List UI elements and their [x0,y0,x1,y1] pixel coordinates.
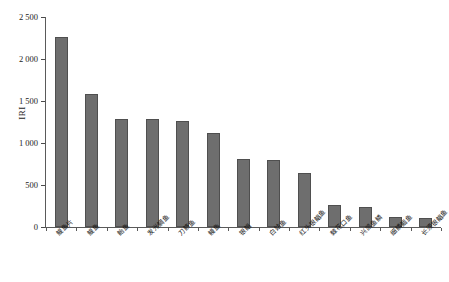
x-axis-tick-mark [46,228,47,231]
bar [55,37,68,227]
x-axis-tick-mark [137,228,138,231]
bar [146,119,159,227]
y-axis-tick-label: 1 000 [2,139,38,148]
bar [207,133,220,228]
bar [176,121,189,227]
bar [115,119,128,227]
x-axis-tick-mark [411,228,412,231]
x-axis-tick-mark [380,228,381,231]
bar [267,160,280,227]
bar-chart: IRI 05001 0001 5002 0002 500 鳀鱼片鳀鱼鲐鱼发光鲷鱼… [0,0,449,282]
y-axis-tick-mark [41,101,45,102]
bar [85,94,98,227]
y-axis-tick-mark [41,17,45,18]
x-axis-tick-mark [350,228,351,231]
y-axis-tick-label: 500 [2,181,38,190]
x-axis-tick-mark [168,228,169,231]
x-axis-tick-mark [228,228,229,231]
y-axis-tick-mark [41,185,45,186]
y-axis-tick-label: 1 500 [2,97,38,106]
y-axis-tick-labels: 05001 0001 5002 0002 500 [0,0,38,282]
x-axis-tick-mark [76,228,77,231]
y-axis-tick-label: 2 500 [2,13,38,22]
y-axis-tick-mark [41,227,45,228]
x-axis-tick-mark [289,228,290,231]
bar [237,159,250,227]
bar [298,173,311,227]
plot-area [46,17,441,227]
x-axis-tick-mark [441,228,442,231]
y-axis-tick-mark [41,59,45,60]
y-axis-tick-label: 2 000 [2,55,38,64]
x-axis-tick-mark [198,228,199,231]
x-axis-tick-mark [107,228,108,231]
y-axis-tick-label: 0 [2,223,38,232]
x-axis-tick-mark [259,228,260,231]
x-axis-tick-mark [319,228,320,231]
y-axis-tick-mark [41,143,45,144]
